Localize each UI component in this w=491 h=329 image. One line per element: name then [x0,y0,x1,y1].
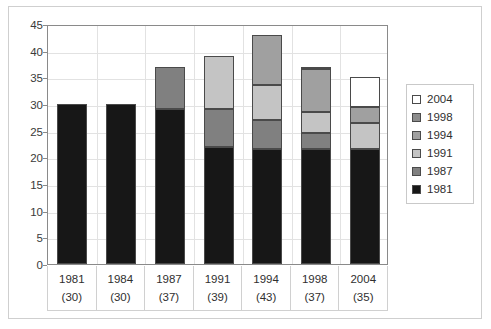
y-axis-tick-label: 40 [1,47,43,58]
legend-label: 2004 [427,93,453,105]
legend-swatch-icon [412,131,421,140]
x-axis-year-label: 1994 [253,273,279,285]
legend-label: 1998 [427,111,453,123]
legend-label: 1981 [427,183,453,195]
y-axis-tick-label: 30 [1,100,43,111]
legend-item-1998[interactable]: 1998 [412,108,469,126]
plot-area [47,25,388,265]
bar-segment-1994-1981 [252,149,282,264]
y-axis-tick-label: 20 [1,153,43,164]
category-divider [340,26,341,264]
legend-swatch-icon [412,113,421,122]
legend-swatch-icon [412,167,421,176]
category-divider [243,26,244,264]
bar-segment-2004-1994 [350,107,380,123]
legend: 200419981994199119871981 [406,84,474,204]
bar-1991 [204,24,234,264]
legend-swatch-icon [412,95,421,104]
bar-segment-1991-1991 [204,56,234,109]
x-axis-total-label: (43) [256,291,276,303]
category-divider [145,26,146,264]
x-axis-total-label: (37) [159,291,179,303]
x-axis-total-label: (30) [110,291,130,303]
bar-segment-1998-1987 [301,133,331,149]
bar-segment-1998-1994 [301,69,331,112]
y-axis-tick-label: 5 [1,233,43,244]
bar-segment-1991-1981 [204,147,234,264]
x-axis-cell: 1994(43) [242,266,291,310]
category-divider [194,26,195,264]
x-axis-labels: 1981(30)1984(30)1987(37)1991(39)1994(43)… [47,266,388,311]
legend-item-1981[interactable]: 1981 [412,180,469,198]
y-axis-tick-label: 45 [1,20,43,31]
x-axis-year-label: 1984 [108,273,134,285]
x-axis-cell: 2004(35) [339,266,388,310]
bar-segment-1994-1987 [252,120,282,149]
x-axis-total-label: (35) [353,291,373,303]
bar-segment-1998-1998 [301,67,331,70]
bar-segment-1987-1981 [155,109,185,264]
category-divider [97,26,98,264]
bar-segment-2004-2004 [350,77,380,106]
bar-1998 [301,24,331,264]
y-axis-tick-label: 25 [1,127,43,138]
legend-item-1987[interactable]: 1987 [412,162,469,180]
bar-1981 [57,24,87,264]
y-axis-tick-label: 10 [1,207,43,218]
bar-1984 [106,24,136,264]
y-axis: 454035302520151050 [0,25,43,265]
y-axis-tick-label: 35 [1,73,43,84]
bar-segment-1991-1987 [204,109,234,146]
x-axis-cell: 1991(39) [194,266,243,310]
legend-swatch-icon [412,185,421,194]
legend-swatch-icon [412,149,421,158]
legend-item-1991[interactable]: 1991 [412,144,469,162]
bar-segment-1984-1981 [106,104,136,264]
x-axis-year-label: 2004 [350,273,376,285]
y-axis-tick-label: 0 [1,260,43,271]
x-axis-year-label: 1991 [205,273,231,285]
bar-segment-1987-1987 [155,67,185,110]
bar-segment-1994-1994 [252,35,282,86]
x-axis-cell: 1998(37) [291,266,340,310]
legend-item-2004[interactable]: 2004 [412,90,469,108]
bar-1987 [155,24,185,264]
x-axis-year-label: 1987 [156,273,182,285]
bar-2004 [350,24,380,264]
chart-figure: 454035302520151050 1981(30)1984(30)1987(… [0,0,491,329]
x-axis-cell: 1984(30) [97,266,146,310]
bar-segment-1998-1981 [301,149,331,264]
x-axis-cell: 1987(37) [145,266,194,310]
legend-item-1994[interactable]: 1994 [412,126,469,144]
legend-label: 1987 [427,165,453,177]
bar-segment-1994-1991 [252,85,282,120]
bar-segment-2004-1991 [350,123,380,150]
bar-1994 [252,24,282,264]
bar-segment-1998-1991 [301,112,331,133]
category-divider [292,26,293,264]
x-axis-total-label: (30) [62,291,82,303]
bar-segment-2004-1981 [350,149,380,264]
x-axis-total-label: (37) [304,291,324,303]
x-axis-cell: 1981(30) [48,266,97,310]
bar-segment-1981-1981 [57,104,87,264]
x-axis-year-label: 1998 [302,273,328,285]
x-axis-total-label: (39) [207,291,227,303]
x-axis-year-label: 1981 [59,273,85,285]
y-axis-tick-label: 15 [1,180,43,191]
legend-label: 1994 [427,129,453,141]
legend-label: 1991 [427,147,453,159]
